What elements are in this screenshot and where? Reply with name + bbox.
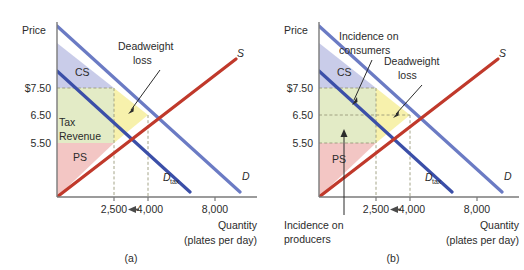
- incidence-on-producers-label-line1: Incidence on: [284, 219, 344, 231]
- x-tick-label-2500: 2,500: [101, 203, 127, 215]
- region-label-cs: CS: [337, 66, 352, 78]
- y-tick-label-650: 6.50: [293, 109, 314, 121]
- x-tick-label-4000: 4,000: [137, 203, 163, 215]
- deadweight-loss-label-line1: Deadweight: [118, 40, 174, 52]
- y-tick-label-650: 6.50: [31, 109, 52, 121]
- incidence-on-producers-label-line2: producers: [284, 233, 331, 245]
- demand-curve-label: D: [242, 170, 250, 182]
- y-axis-title: Price: [22, 24, 46, 36]
- deadweight-loss-label-line2: loss: [398, 69, 417, 81]
- y-tick-label-750: $7.50: [287, 82, 313, 94]
- incidence-on-consumers-label-line2: consumers: [339, 44, 390, 56]
- svg-text:tax: tax: [432, 178, 442, 185]
- x-axis-title-line2: (plates per day): [446, 234, 519, 246]
- panel-a-chart: Price $7.50 6.50 5.50 2,500 4,000 8,000 …: [0, 0, 262, 270]
- incidence-on-producers-region: [319, 115, 376, 143]
- x-axis-title-line1: Quantity: [218, 219, 258, 231]
- deadweight-loss-leader-arrow-icon: [128, 70, 160, 114]
- demand-curve-label: D: [504, 170, 512, 182]
- incidence-on-consumers-region: [319, 88, 376, 115]
- region-label-tax-revenue: Revenue: [59, 130, 101, 142]
- x-tick-label-8000: 8,000: [202, 203, 228, 215]
- region-label-cs: CS: [75, 66, 90, 78]
- y-tick-label-550: 5.50: [293, 137, 314, 149]
- panel-b: Price $7.50 6.50 5.50 2,500 4,000 8,000 …: [262, 0, 524, 270]
- deadweight-loss-label-line2: loss: [133, 54, 152, 66]
- deadweight-loss-region: [376, 88, 410, 143]
- supply-curve-label: S: [237, 47, 244, 59]
- x-axis-title-line2: (plates per day): [184, 234, 257, 246]
- deadweight-loss-label-line1: Deadweight: [384, 55, 440, 67]
- supply-curve-label: S: [499, 47, 506, 59]
- x-axis-title-line1: Quantity: [480, 219, 520, 231]
- panel-a-caption: (a): [125, 252, 138, 264]
- svg-text:tax: tax: [170, 178, 180, 185]
- region-label-ps: PS: [73, 151, 87, 163]
- y-tick-label-750: $7.50: [25, 82, 51, 94]
- y-tick-label-550: 5.50: [31, 137, 52, 149]
- y-axis-title: Price: [284, 24, 308, 36]
- x-tick-label-2500: 2,500: [363, 203, 389, 215]
- panel-a: Price $7.50 6.50 5.50 2,500 4,000 8,000 …: [0, 0, 262, 270]
- deadweight-loss-region: [114, 88, 148, 143]
- x-tick-label-4000: 4,000: [399, 203, 425, 215]
- panel-b-caption: (b): [387, 252, 400, 264]
- tax-incidence-figure: Price $7.50 6.50 5.50 2,500 4,000 8,000 …: [0, 0, 524, 270]
- region-label-tax: Tax: [59, 116, 76, 128]
- panel-b-chart: Price $7.50 6.50 5.50 2,500 4,000 8,000 …: [262, 0, 524, 270]
- x-tick-label-8000: 8,000: [464, 203, 490, 215]
- incidence-on-consumers-label-line1: Incidence on: [339, 30, 399, 42]
